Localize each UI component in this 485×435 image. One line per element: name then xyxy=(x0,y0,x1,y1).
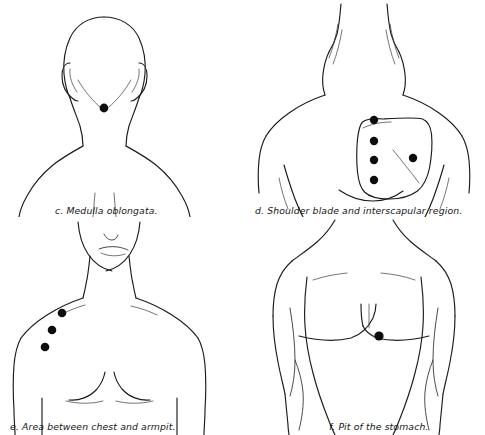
panel-f-pit-of-stomach: f. Pit of the stomach. xyxy=(243,218,485,435)
panel-f-artwork xyxy=(243,218,485,435)
panel-e-caption-letter: e. xyxy=(10,421,19,432)
vital-point-dot xyxy=(41,343,50,352)
panel-d-caption: d. Shoulder blade and interscapular regi… xyxy=(243,205,485,216)
panel-d-shoulder-blade: d. Shoulder blade and interscapular regi… xyxy=(243,0,485,217)
vital-point-dot xyxy=(374,331,383,340)
vital-point-dot xyxy=(370,176,378,184)
panel-c-artwork xyxy=(0,0,242,217)
panel-d-caption-text: Shoulder blade and interscapular region. xyxy=(267,205,462,216)
vital-point-dot xyxy=(370,156,378,164)
vital-point-dot xyxy=(409,154,417,162)
vital-point-dot xyxy=(100,104,109,113)
vital-point-dot xyxy=(370,116,378,124)
panel-f-caption-letter: f. xyxy=(329,421,335,432)
panel-e-chest-armpit: e. Area between chest and armpit. xyxy=(0,218,242,435)
vital-point-dot xyxy=(48,326,57,335)
panel-c-caption-text: Medulla oblongata. xyxy=(66,205,157,216)
panel-c-medulla-oblongata: c. Medulla oblongata. xyxy=(0,0,242,217)
panel-d-artwork xyxy=(243,0,485,217)
panel-e-artwork xyxy=(0,218,242,435)
panel-f-caption-text: Pit of the stomach. xyxy=(338,421,428,432)
anatomical-figure-sheet: c. Medulla oblongata. xyxy=(0,0,485,435)
panel-f-caption: f. Pit of the stomach. xyxy=(243,421,485,432)
panel-e-caption: e. Area between chest and armpit. xyxy=(0,421,252,432)
vital-point-dot xyxy=(58,309,67,318)
panel-e-caption-text: Area between chest and armpit. xyxy=(22,421,176,432)
vital-point-dot xyxy=(370,137,378,145)
panel-d-caption-letter: d. xyxy=(255,205,264,216)
panel-c-caption-letter: c. xyxy=(55,205,63,216)
